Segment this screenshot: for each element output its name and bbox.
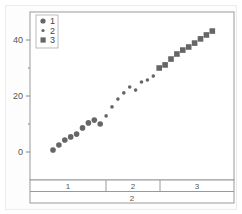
legend-marker-circle-small-icon bbox=[41, 29, 44, 32]
data-point-series-1 bbox=[74, 131, 80, 137]
data-point-series-2 bbox=[116, 97, 120, 101]
legend-label: 3 bbox=[50, 35, 55, 45]
legend-label: 2 bbox=[50, 26, 55, 36]
data-point-series-1 bbox=[92, 117, 98, 123]
x-group-label-level2: 2 bbox=[130, 194, 135, 203]
data-point-series-1 bbox=[80, 125, 86, 131]
x-group-label-level1: 2 bbox=[131, 182, 136, 191]
data-point-series-1 bbox=[68, 134, 74, 140]
y-tick-label: 40 bbox=[13, 35, 23, 45]
data-point-series-3 bbox=[210, 28, 216, 34]
data-point-series-3 bbox=[192, 40, 198, 46]
data-point-series-3 bbox=[180, 47, 186, 53]
data-point-series-2 bbox=[152, 74, 156, 78]
data-point-series-3 bbox=[168, 56, 174, 62]
data-point-series-1 bbox=[56, 142, 62, 148]
scatter-chart: 02040 123 1232 bbox=[0, 0, 242, 214]
data-point-series-2 bbox=[146, 78, 150, 82]
data-point-series-1 bbox=[97, 121, 103, 127]
data-point-series-3 bbox=[198, 36, 204, 42]
legend-marker-square-icon bbox=[41, 37, 46, 42]
x-group-label-level1: 1 bbox=[66, 182, 71, 191]
data-point-series-1 bbox=[62, 137, 68, 143]
data-point-series-1 bbox=[50, 147, 56, 153]
data-point-series-2 bbox=[128, 85, 132, 89]
data-point-series-3 bbox=[204, 32, 210, 38]
y-tick-label: 0 bbox=[18, 147, 23, 157]
data-point-series-2 bbox=[122, 91, 126, 95]
data-point-series-2 bbox=[104, 114, 108, 118]
legend: 123 bbox=[36, 15, 58, 48]
data-point-series-2 bbox=[134, 88, 138, 92]
legend-marker-circle-large-icon bbox=[40, 18, 45, 23]
data-point-series-3 bbox=[174, 51, 180, 57]
y-tick-label: 20 bbox=[13, 91, 23, 101]
data-point-series-3 bbox=[156, 65, 162, 71]
data-point-series-1 bbox=[86, 120, 92, 126]
data-point-series-3 bbox=[162, 62, 168, 68]
legend-label: 1 bbox=[50, 16, 55, 26]
data-point-series-3 bbox=[186, 44, 192, 50]
y-axis: 02040 bbox=[13, 35, 30, 157]
plot-frame bbox=[30, 12, 234, 180]
data-point-series-2 bbox=[110, 105, 114, 109]
x-axis-group-table: 1232 bbox=[30, 180, 234, 203]
data-point-series-2 bbox=[140, 80, 144, 84]
x-group-label-level1: 3 bbox=[195, 182, 200, 191]
